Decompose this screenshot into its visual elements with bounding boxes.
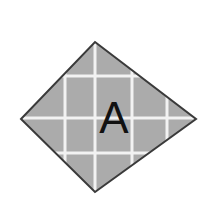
kite-figure: A xyxy=(0,0,211,221)
shape-label-a: A xyxy=(99,93,129,142)
diagram-canvas: A xyxy=(0,0,211,221)
